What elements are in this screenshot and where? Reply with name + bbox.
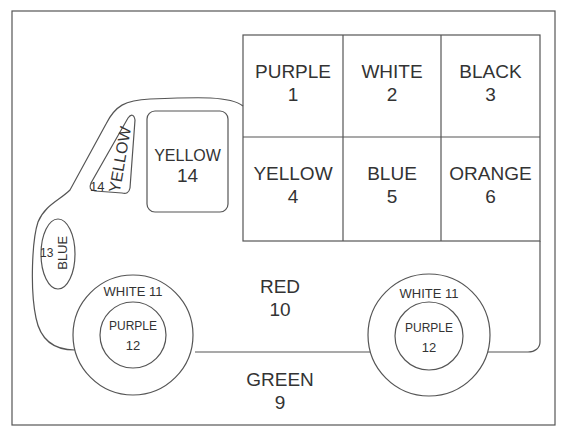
- ground-color: GREEN: [230, 369, 330, 392]
- cell-color: YELLOW: [243, 163, 343, 186]
- cargo-cell-3: BLACK 3: [441, 61, 540, 107]
- body-color: RED: [230, 276, 330, 299]
- side-window-number: 14: [90, 179, 104, 195]
- cell-color: BLUE: [343, 163, 441, 186]
- wheel-left-tire-label: WHITE 11: [83, 284, 183, 300]
- cell-number: 1: [243, 84, 343, 107]
- wheel-left-hub-label: PURPLE 12: [100, 317, 166, 357]
- cell-color: PURPLE: [243, 61, 343, 84]
- cargo-cell-1: PURPLE 1: [243, 61, 343, 107]
- hub-color: PURPLE: [396, 319, 462, 338]
- cargo-cell-2: WHITE 2: [343, 61, 441, 107]
- cell-number: 4: [243, 186, 343, 209]
- cell-color: WHITE: [343, 61, 441, 84]
- hub-color: PURPLE: [100, 317, 166, 336]
- cell-color: BLACK: [441, 61, 540, 84]
- hub-number: 12: [100, 336, 166, 357]
- cargo-cell-5: BLUE 5: [343, 163, 441, 209]
- headlight-number: 13: [40, 246, 53, 260]
- body-label: RED 10: [230, 276, 330, 322]
- hub-number: 12: [396, 338, 462, 359]
- wheel-right-hub-label: PURPLE 12: [396, 319, 462, 359]
- cargo-cell-6: ORANGE 6: [441, 163, 540, 209]
- cell-color: ORANGE: [441, 163, 540, 186]
- window-number: 14: [147, 165, 228, 188]
- cargo-cell-4: YELLOW 4: [243, 163, 343, 209]
- cell-number: 6: [441, 186, 540, 209]
- wheel-right-tire-label: WHITE 11: [379, 286, 479, 302]
- ground-label: GREEN 9: [230, 369, 330, 415]
- cell-number: 5: [343, 186, 441, 209]
- ground-number: 9: [230, 392, 330, 415]
- body-number: 10: [230, 299, 330, 322]
- headlight-color: BLUE: [55, 233, 71, 273]
- front-window-label: YELLOW 14: [147, 146, 228, 188]
- cell-number: 3: [441, 84, 540, 107]
- cell-number: 2: [343, 84, 441, 107]
- window-color: YELLOW: [147, 146, 228, 165]
